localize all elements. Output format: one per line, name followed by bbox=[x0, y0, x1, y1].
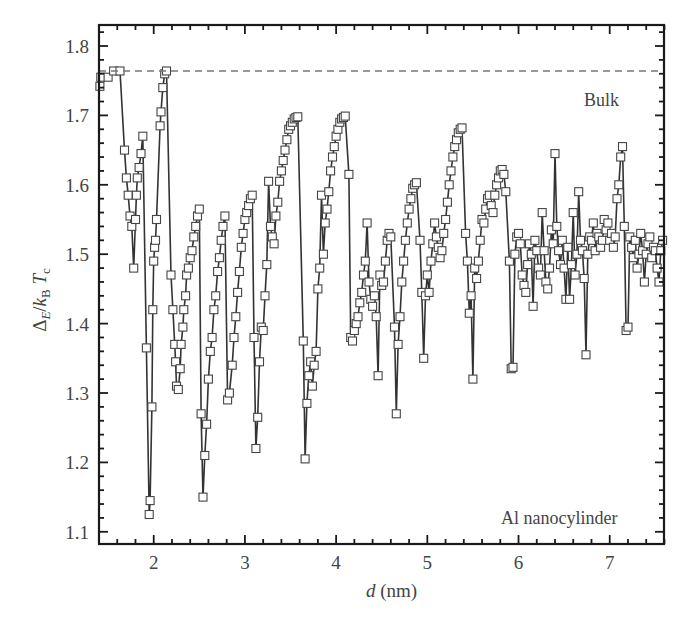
data-point-marker bbox=[387, 233, 395, 241]
data-point-marker bbox=[321, 219, 329, 227]
data-point-marker bbox=[283, 136, 291, 144]
data-point-marker bbox=[250, 334, 258, 342]
data-point-marker bbox=[489, 209, 497, 217]
data-point-marker bbox=[615, 181, 623, 189]
y-tick-label: 1.5 bbox=[65, 244, 89, 265]
data-point-marker bbox=[153, 216, 161, 224]
data-point-marker bbox=[135, 164, 143, 172]
data-point-marker bbox=[327, 167, 335, 175]
data-point-marker bbox=[146, 497, 154, 505]
data-point-marker bbox=[474, 257, 482, 265]
data-point-marker bbox=[358, 288, 366, 296]
data-point-marker bbox=[217, 236, 225, 244]
data-point-marker bbox=[180, 306, 188, 314]
data-point-marker bbox=[145, 511, 153, 519]
data-point-marker bbox=[467, 292, 475, 300]
data-point-marker bbox=[544, 285, 552, 293]
data-point-marker bbox=[423, 271, 431, 279]
y-tick-label: 1.2 bbox=[65, 452, 89, 473]
y-tick-label: 1.6 bbox=[65, 175, 89, 196]
data-point-marker bbox=[609, 243, 617, 251]
data-point-marker bbox=[329, 153, 337, 161]
data-point-marker bbox=[349, 337, 357, 345]
data-point-marker bbox=[208, 334, 216, 342]
data-point-marker bbox=[308, 382, 316, 390]
data-point-marker bbox=[276, 177, 284, 185]
data-point-marker bbox=[341, 112, 349, 120]
data-point-marker bbox=[637, 229, 645, 237]
data-series-markers bbox=[96, 67, 667, 519]
data-point-marker bbox=[267, 222, 275, 230]
data-point-marker bbox=[425, 288, 433, 296]
data-point-marker bbox=[538, 209, 546, 217]
data-point-marker bbox=[491, 191, 499, 199]
data-point-marker bbox=[611, 233, 619, 241]
data-point-marker bbox=[567, 261, 575, 269]
data-point-marker bbox=[167, 271, 175, 279]
y-tick-label: 1.7 bbox=[65, 105, 89, 126]
x-tick-label: 7 bbox=[605, 552, 615, 573]
data-point-marker bbox=[133, 174, 141, 182]
data-point-marker bbox=[214, 268, 222, 276]
data-point-marker bbox=[195, 205, 203, 213]
y-axis-label: ΔE/kB Tc bbox=[29, 268, 53, 332]
data-point-marker bbox=[301, 455, 309, 463]
data-point-marker bbox=[239, 229, 247, 237]
data-point-marker bbox=[174, 386, 182, 394]
data-point-marker bbox=[365, 278, 373, 286]
data-point-marker bbox=[184, 264, 192, 272]
data-point-marker bbox=[130, 264, 138, 272]
data-point-marker bbox=[420, 354, 428, 362]
data-point-marker bbox=[225, 389, 233, 397]
data-point-marker bbox=[458, 124, 466, 132]
data-point-marker bbox=[221, 212, 229, 220]
data-point-marker bbox=[555, 247, 563, 255]
data-point-marker bbox=[392, 410, 400, 418]
data-point-marker bbox=[405, 205, 413, 213]
data-point-marker bbox=[465, 309, 473, 317]
data-point-marker bbox=[380, 278, 388, 286]
data-point-marker bbox=[564, 243, 572, 251]
data-point-marker bbox=[203, 420, 211, 428]
data-point-marker bbox=[199, 493, 207, 501]
data-point-marker bbox=[190, 233, 198, 241]
data-point-marker bbox=[212, 292, 220, 300]
data-point-marker bbox=[210, 306, 218, 314]
data-point-marker bbox=[232, 313, 240, 321]
data-point-marker bbox=[582, 351, 590, 359]
data-point-marker bbox=[197, 410, 205, 418]
data-point-marker bbox=[248, 191, 256, 199]
data-point-marker bbox=[604, 219, 612, 227]
data-point-marker bbox=[613, 195, 621, 203]
data-point-marker bbox=[374, 372, 382, 380]
data-point-marker bbox=[416, 236, 424, 244]
data-point-marker bbox=[569, 209, 577, 217]
data-point-marker bbox=[237, 243, 245, 251]
data-point-marker bbox=[149, 306, 157, 314]
data-point-marker bbox=[511, 250, 519, 258]
data-point-marker bbox=[159, 84, 167, 92]
data-point-marker bbox=[228, 361, 236, 369]
data-point-marker bbox=[580, 275, 588, 283]
data-point-marker bbox=[354, 313, 362, 321]
data-point-marker bbox=[152, 236, 160, 244]
data-point-marker bbox=[305, 372, 313, 380]
data-point-marker bbox=[589, 219, 597, 227]
x-tick-label: 6 bbox=[514, 552, 524, 573]
data-point-marker bbox=[531, 236, 539, 244]
data-point-marker bbox=[515, 229, 523, 237]
chart-canvas: 2345671.11.21.31.41.51.61.71.8 Bulk Al n… bbox=[0, 0, 695, 625]
y-tick-label: 1.1 bbox=[65, 522, 89, 543]
data-point-marker bbox=[192, 222, 200, 230]
data-point-marker bbox=[265, 177, 273, 185]
data-point-marker bbox=[401, 236, 409, 244]
data-point-marker bbox=[323, 205, 331, 213]
data-point-marker bbox=[215, 254, 223, 262]
data-point-marker bbox=[179, 323, 187, 331]
data-point-marker bbox=[400, 257, 408, 265]
data-point-marker bbox=[398, 278, 406, 286]
data-point-marker bbox=[431, 219, 439, 227]
data-point-marker bbox=[540, 247, 548, 255]
data-point-marker bbox=[403, 219, 411, 227]
data-point-marker bbox=[272, 212, 280, 220]
